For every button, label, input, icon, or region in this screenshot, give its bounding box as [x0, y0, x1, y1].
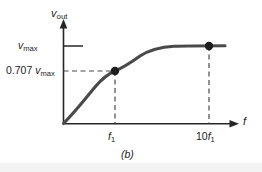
data-point-10f1: [205, 42, 213, 50]
x-tick-label-f1: f1: [108, 131, 115, 142]
y-axis-label: vout: [51, 8, 68, 19]
x-tick-label-10f1-prefix: 10: [196, 130, 208, 142]
y-axis-label-symbol: v: [51, 7, 57, 19]
x-tick-label-10f1: 10f1: [196, 131, 215, 142]
x-tick-label-10f1-subscript: 1: [211, 135, 215, 144]
x-tick-label-f1-subscript: 1: [111, 135, 115, 144]
y-tick-label-vmax-subscript: max: [23, 44, 37, 53]
data-point-f1: [111, 67, 119, 75]
page-shading: [0, 163, 262, 172]
figure-caption: (b): [121, 149, 134, 160]
x-axis: [64, 120, 240, 128]
y-tick-label-0707vmax: 0.707 vmax: [6, 65, 55, 76]
response-curve: [64, 46, 226, 124]
y-tick-label-0707vmax-subscript: max: [40, 69, 54, 78]
x-axis-label: f: [243, 116, 246, 127]
y-axis-label-subscript: out: [57, 12, 68, 21]
x-axis-arrowhead: [230, 120, 240, 128]
y-tick-label-0707vmax-prefix: 0.707: [6, 64, 35, 76]
plot-area: [0, 0, 262, 172]
y-tick-label-vmax: vmax: [18, 40, 38, 51]
figure-high-pass-response: vout vmax 0.707 vmax f1 10f1 f (b): [0, 0, 262, 172]
